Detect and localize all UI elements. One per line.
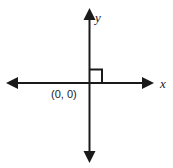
y-axis-positive-arrowhead-icon — [84, 8, 96, 20]
x-axis-negative-arrowhead-icon — [6, 77, 18, 89]
y-axis-negative-arrowhead-icon — [84, 151, 96, 163]
coordinate-plane-diagram: y x (0, 0) — [0, 0, 173, 168]
x-axis-positive-arrowhead-icon — [142, 77, 154, 89]
origin-point-label: (0, 0) — [51, 88, 77, 100]
right-angle-marker-icon — [90, 70, 103, 84]
y-axis-label: y — [93, 10, 101, 25]
x-axis-label: x — [159, 76, 166, 91]
coordinate-plane-canvas: y x (0, 0) — [0, 0, 173, 168]
